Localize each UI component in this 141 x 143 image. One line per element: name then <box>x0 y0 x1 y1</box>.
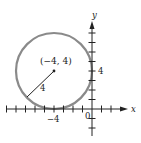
x-axis-arrow-icon <box>120 107 128 112</box>
x-tick-label: −4 <box>47 114 60 124</box>
y-axis-label: y <box>91 10 97 20</box>
origin-label: 0 <box>85 111 90 121</box>
x-axis-label: x <box>131 104 136 114</box>
y-tick-label: 4 <box>98 66 103 76</box>
radius-label: 4 <box>40 83 45 93</box>
coordinate-diagram: (−4, 4) 4 y x 0 −4 4 <box>0 0 141 143</box>
center-point <box>53 70 56 73</box>
y-axis-arrow-icon <box>90 21 95 29</box>
center-label: (−4, 4) <box>40 56 72 66</box>
